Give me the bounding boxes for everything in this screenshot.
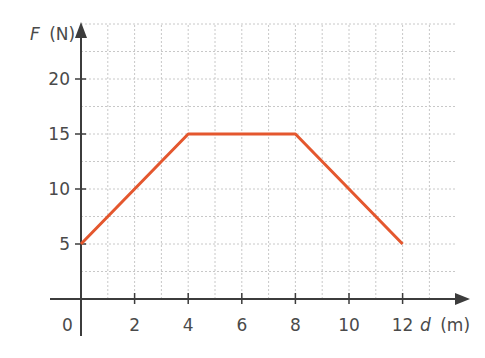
x-tick-label: 4 — [183, 315, 194, 335]
force-distance-chart: 246810125101520 F (N) d (m) 0 — [0, 0, 485, 358]
x-tick-label: 6 — [236, 315, 247, 335]
origin-label: 0 — [62, 315, 73, 335]
x-tick-label: 8 — [290, 315, 301, 335]
x-axis-arrow-icon — [455, 293, 470, 305]
x-axis-label: d (m) — [420, 315, 470, 335]
y-tick-label: 15 — [48, 124, 70, 144]
axes — [50, 22, 470, 336]
x-tick-label: 10 — [338, 315, 360, 335]
y-axis-label: F (N) — [30, 24, 75, 44]
y-tick-label: 20 — [48, 69, 70, 89]
x-tick-label: 12 — [392, 315, 414, 335]
y-tick-label: 5 — [59, 234, 70, 254]
x-tick-label: 2 — [129, 315, 140, 335]
grid — [81, 24, 455, 299]
y-tick-label: 10 — [48, 179, 70, 199]
tick-labels: 246810125101520 — [48, 69, 413, 335]
